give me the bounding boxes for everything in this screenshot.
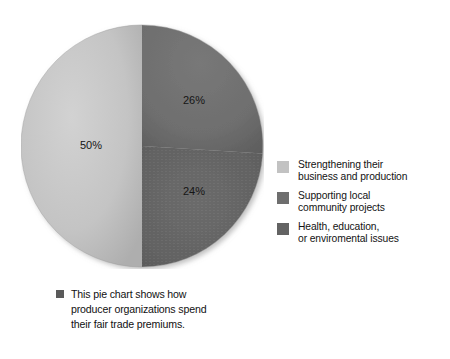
legend-item-supporting: Supporting local community projects [277, 190, 450, 215]
pie-slice-health-texture [142, 146, 263, 267]
legend-label-health-line2: or enviromental issues [298, 233, 399, 245]
legend-swatch-icon-strengthening [277, 161, 289, 173]
caption-line3: their fair trade premiums. [71, 317, 206, 332]
legend-item-health: Health, education, or enviromental issue… [277, 221, 450, 246]
pie-slice-supporting [142, 25, 263, 154]
caption-line1: This pie chart shows how [71, 287, 206, 302]
pie-chart-figure: 50% 26% 24% Strengthening their business… [0, 0, 450, 359]
legend-label-health: Health, education, or enviromental issue… [298, 221, 399, 246]
legend-label-strengthening-line2: business and production [298, 171, 407, 183]
legend-label-supporting-line1: Supporting local [298, 190, 370, 201]
pie-chart-graphic: 50% 26% 24% [21, 24, 264, 269]
legend-item-strengthening: Strengthening their business and product… [277, 159, 450, 184]
legend-label-strengthening: Strengthening their business and product… [298, 159, 407, 184]
legend-swatch-icon-health [277, 223, 289, 235]
pie-label-26: 26% [183, 94, 205, 106]
caption-line2: producer organizations spend [71, 302, 206, 317]
pie-label-24: 24% [183, 185, 205, 197]
caption-bullet-square-icon [56, 290, 64, 298]
chart-legend: Strengthening their business and product… [277, 159, 450, 251]
legend-label-supporting: Supporting local community projects [298, 190, 385, 215]
pie-label-50: 50% [80, 139, 102, 151]
legend-label-supporting-line2: community projects [298, 202, 385, 214]
chart-caption: This pie chart shows how producer organi… [56, 287, 286, 332]
legend-label-health-line1: Health, education, [298, 221, 379, 232]
caption-text: This pie chart shows how producer organi… [71, 287, 206, 332]
pie-slices [21, 25, 263, 267]
pie-svg: 50% 26% 24% [21, 24, 264, 269]
legend-label-strengthening-line1: Strengthening their [298, 159, 383, 170]
legend-swatch-icon-supporting [277, 192, 289, 204]
